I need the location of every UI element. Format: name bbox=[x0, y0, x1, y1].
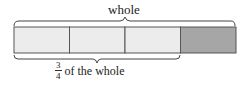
three-quarters-label: 3 4 of the whole bbox=[55, 61, 124, 80]
whole-brace bbox=[14, 17, 235, 26]
fraction: 3 4 bbox=[55, 61, 62, 80]
bar-segment-2 bbox=[70, 27, 126, 53]
bar-segment-4-shaded bbox=[181, 27, 237, 53]
fraction-denominator: 4 bbox=[56, 71, 61, 80]
fraction-text: of the whole bbox=[65, 65, 125, 77]
bar-segment-1 bbox=[14, 27, 70, 53]
fraction-numerator: 3 bbox=[55, 61, 62, 71]
bar-segment-3 bbox=[125, 27, 181, 53]
